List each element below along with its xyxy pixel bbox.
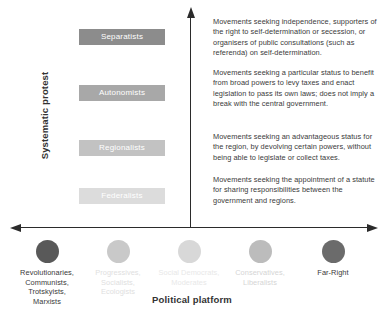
y-axis-title: Systematic protest (39, 51, 50, 181)
diagram-canvas: Systematic protest Political platform Se… (0, 0, 384, 314)
category-pill-separatists[interactable]: Separatists (79, 29, 165, 45)
platform-dot-social-democrats (178, 240, 201, 263)
platform-label-far-right: Far-Right (290, 268, 376, 278)
category-description-separatists: Movements seeking independence, supporte… (213, 17, 379, 59)
platform-dot-far-right (322, 240, 345, 263)
horizontal-axis-line (16, 227, 374, 228)
category-description-autonomists: Movements seeking a particular status to… (213, 68, 379, 110)
category-pill-autonomists[interactable]: Autonomists (79, 85, 165, 101)
category-pill-regionalists[interactable]: Regionalists (79, 140, 165, 156)
platform-dot-conservatives (249, 240, 272, 263)
category-description-regionalists: Movements seeking an advantageous status… (213, 132, 379, 163)
vertical-axis-line (190, 16, 191, 228)
category-pill-federalists[interactable]: Federalists (79, 188, 165, 204)
platform-dot-progressives (107, 240, 130, 263)
category-description-federalists: Movements seeking the appointment of a s… (213, 175, 379, 206)
horizontal-axis-arrow-right-icon (367, 224, 378, 232)
vertical-axis-arrow-icon (187, 7, 195, 18)
horizontal-axis-arrow-left-icon (10, 224, 21, 232)
platform-dot-revolutionaries (36, 240, 59, 263)
platform-far-right[interactable]: Far-Right (290, 240, 376, 278)
